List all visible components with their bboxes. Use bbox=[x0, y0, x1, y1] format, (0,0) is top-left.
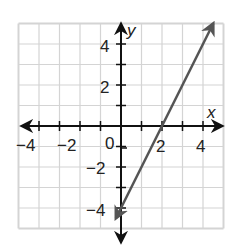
x-axis-label: x bbox=[206, 103, 216, 122]
origin-label: 0 bbox=[105, 134, 114, 153]
y-axis-label: y bbox=[126, 21, 137, 40]
y-tick-label-neg2: −2 bbox=[86, 159, 105, 178]
y-tick-label-2: 2 bbox=[100, 78, 109, 97]
y-tick-label-neg4: −4 bbox=[86, 201, 105, 220]
x-tick-label-neg2: −2 bbox=[57, 136, 76, 155]
x-tick-label-2: 2 bbox=[156, 137, 165, 156]
coordinate-plane: y x −4 −2 0 2 4 4 2 −2 −4 bbox=[0, 0, 238, 250]
y-tick-label-4: 4 bbox=[100, 37, 109, 56]
x-tick-label-4: 4 bbox=[196, 137, 205, 156]
graph-line bbox=[116, 24, 213, 219]
x-tick-label-neg4: −4 bbox=[16, 136, 35, 155]
